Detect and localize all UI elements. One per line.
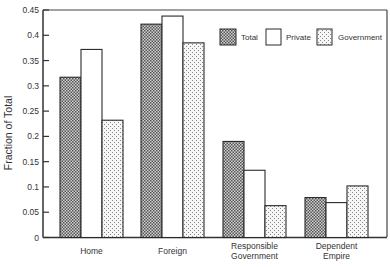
bar-total <box>141 24 162 237</box>
legend-item-total: Total <box>220 29 258 45</box>
bars <box>60 16 368 237</box>
x-category-label: Responsible <box>231 241 278 251</box>
y-tick-label: 0.2 <box>27 131 39 141</box>
x-category-label: Government <box>231 251 278 261</box>
legend-item-private: Private <box>266 29 311 45</box>
y-tick-label: 0.05 <box>22 207 39 217</box>
y-tick-label: 0.1 <box>27 182 39 192</box>
bar-private <box>162 16 183 237</box>
legend-label-private: Private <box>286 33 311 42</box>
y-axis-ticks: 00.050.10.150.20.250.30.350.40.45 <box>22 5 49 243</box>
bar-total <box>223 141 244 237</box>
bar-private <box>326 203 347 238</box>
y-axis-label: Fraction of Total <box>2 96 14 171</box>
bar-total <box>60 77 81 237</box>
x-category-label: Dependent <box>316 241 358 251</box>
legend-item-government: Government <box>317 29 383 45</box>
bar-government <box>102 120 123 237</box>
legend: Total Private Government <box>220 29 383 45</box>
legend-label-government: Government <box>338 33 383 42</box>
bar-total <box>305 198 326 238</box>
x-category-label: Home <box>80 246 103 256</box>
legend-swatch-private <box>266 29 281 45</box>
legend-swatch-government <box>317 29 332 45</box>
legend-label-total: Total <box>241 33 258 42</box>
y-tick-label: 0.4 <box>27 30 39 40</box>
y-tick-label: 0.25 <box>22 106 39 116</box>
bar-government <box>265 206 286 238</box>
y-tick-label: 0.45 <box>22 5 39 15</box>
bar-government <box>347 186 368 238</box>
legend-swatch-total <box>220 29 236 45</box>
y-tick-label: 0 <box>34 233 39 243</box>
bar-private <box>81 49 102 237</box>
bar-chart: Fraction of Total 00.050.10.150.20.250.3… <box>0 0 390 267</box>
bar-government <box>183 43 204 238</box>
x-category-label: Foreign <box>158 246 187 256</box>
y-tick-label: 0.15 <box>22 157 39 167</box>
bar-private <box>244 170 265 237</box>
y-tick-label: 0.3 <box>27 81 39 91</box>
x-axis-labels: HomeForeignResponsibleGovernmentDependen… <box>80 241 358 261</box>
y-tick-label: 0.35 <box>22 56 39 66</box>
x-category-label: Empire <box>323 251 350 261</box>
